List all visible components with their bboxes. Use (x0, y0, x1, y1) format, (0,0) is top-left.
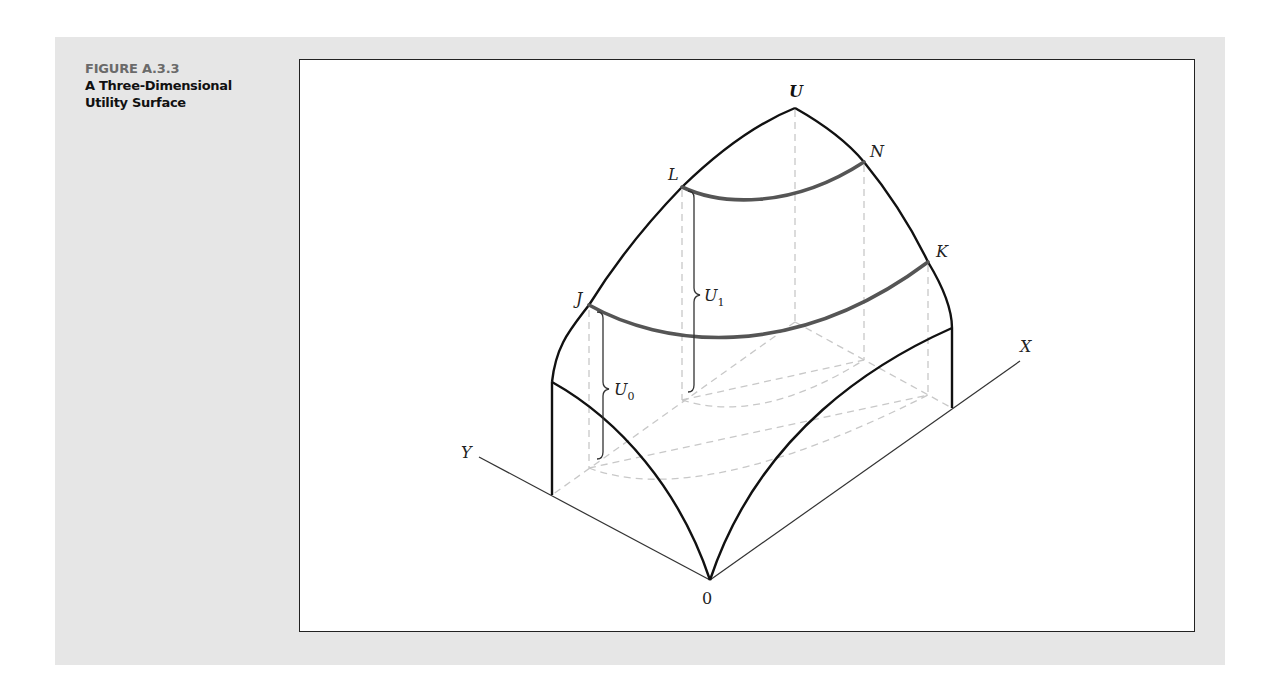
label-L: L (667, 165, 679, 184)
surface-edges (552, 108, 952, 580)
label-axis-X: X (1018, 337, 1032, 356)
label-peak-U: U (789, 82, 804, 101)
label-N: N (869, 142, 885, 161)
label-origin: 0 (702, 589, 712, 608)
label-axis-Y: Y (461, 443, 473, 462)
curve-LN (682, 162, 864, 200)
label-U1: U1 (704, 286, 724, 309)
brace-U1 (688, 191, 700, 392)
braces (597, 191, 700, 459)
left-base-curve (552, 382, 710, 580)
axes (479, 361, 1020, 580)
utility-surface-diagram: U L N J K U1 U0 X Y 0 (0, 0, 1274, 682)
y-axis (479, 457, 710, 580)
x-axis (710, 361, 1020, 580)
indifference-curves (589, 162, 928, 337)
curve-JK (589, 262, 928, 337)
dashed-guides (552, 110, 952, 495)
label-U0: U0 (614, 380, 634, 403)
label-K: K (935, 242, 949, 261)
brace-U0 (597, 312, 609, 459)
label-J: J (573, 289, 584, 308)
right-base-curve (710, 328, 952, 580)
